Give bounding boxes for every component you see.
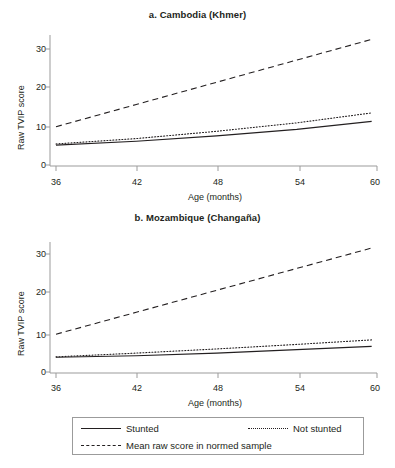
panel-b-series-group — [56, 248, 372, 357]
panel-a-plot-area — [0, 0, 395, 210]
legend-line-dotted-icon — [248, 424, 288, 434]
panel-b-plot-area — [0, 206, 395, 416]
legend-row-bottom: Mean raw score in normed sample — [81, 437, 272, 454]
legend-item-stunted: Stunted — [81, 420, 159, 437]
panel-a-series-group — [56, 39, 372, 145]
line-dashed — [56, 39, 372, 126]
panel-mozambique: b. Mozambique (Changaña) Raw TVIP score … — [0, 206, 395, 406]
legend-row-top-right: Not stunted — [248, 420, 342, 437]
legend-item-normed-mean: Mean raw score in normed sample — [81, 437, 272, 454]
legend-label-not-stunted: Not stunted — [293, 423, 342, 434]
legend-line-solid-icon — [81, 424, 121, 434]
legend-row-top: Stunted — [81, 420, 159, 437]
panel-cambodia: a. Cambodia (Khmer) Raw TVIP score 30 20… — [0, 0, 395, 210]
legend-line-dashed-icon — [81, 441, 121, 451]
legend-item-not-stunted: Not stunted — [248, 420, 342, 437]
line-solid — [56, 121, 372, 145]
legend-label-stunted: Stunted — [126, 423, 159, 434]
line-solid — [56, 346, 372, 357]
legend: Stunted Not stunted Mean raw score in no… — [72, 417, 364, 455]
legend-label-normed-mean: Mean raw score in normed sample — [126, 440, 272, 451]
figure-tvip-by-age: a. Cambodia (Khmer) Raw TVIP score 30 20… — [0, 0, 395, 468]
line-dashed — [56, 248, 372, 334]
line-dotted — [56, 113, 372, 144]
